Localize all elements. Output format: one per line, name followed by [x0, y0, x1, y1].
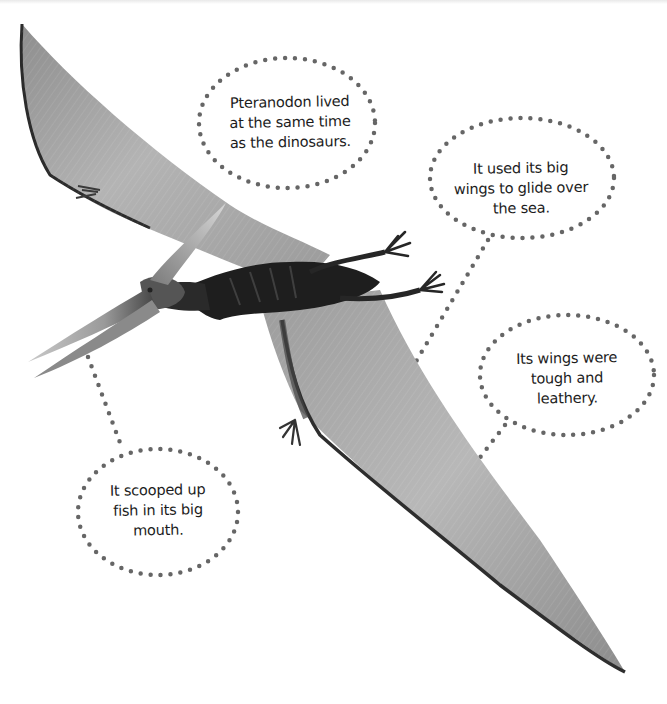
pteranodon-fact-page: Pteranodon lived at the same time as the…: [0, 0, 667, 704]
callout-fish-text: It scooped up fish in its big mouth.: [89, 479, 226, 541]
callout-wings-text: Its wings were tough and leathery.: [496, 347, 637, 409]
left-wing: [21, 24, 330, 290]
callout-glide-text: It used its big wings to glide over the …: [444, 157, 597, 220]
connector-fish: [88, 357, 122, 448]
callout-time-text: Pteranodon lived at the same time as the…: [211, 91, 368, 154]
